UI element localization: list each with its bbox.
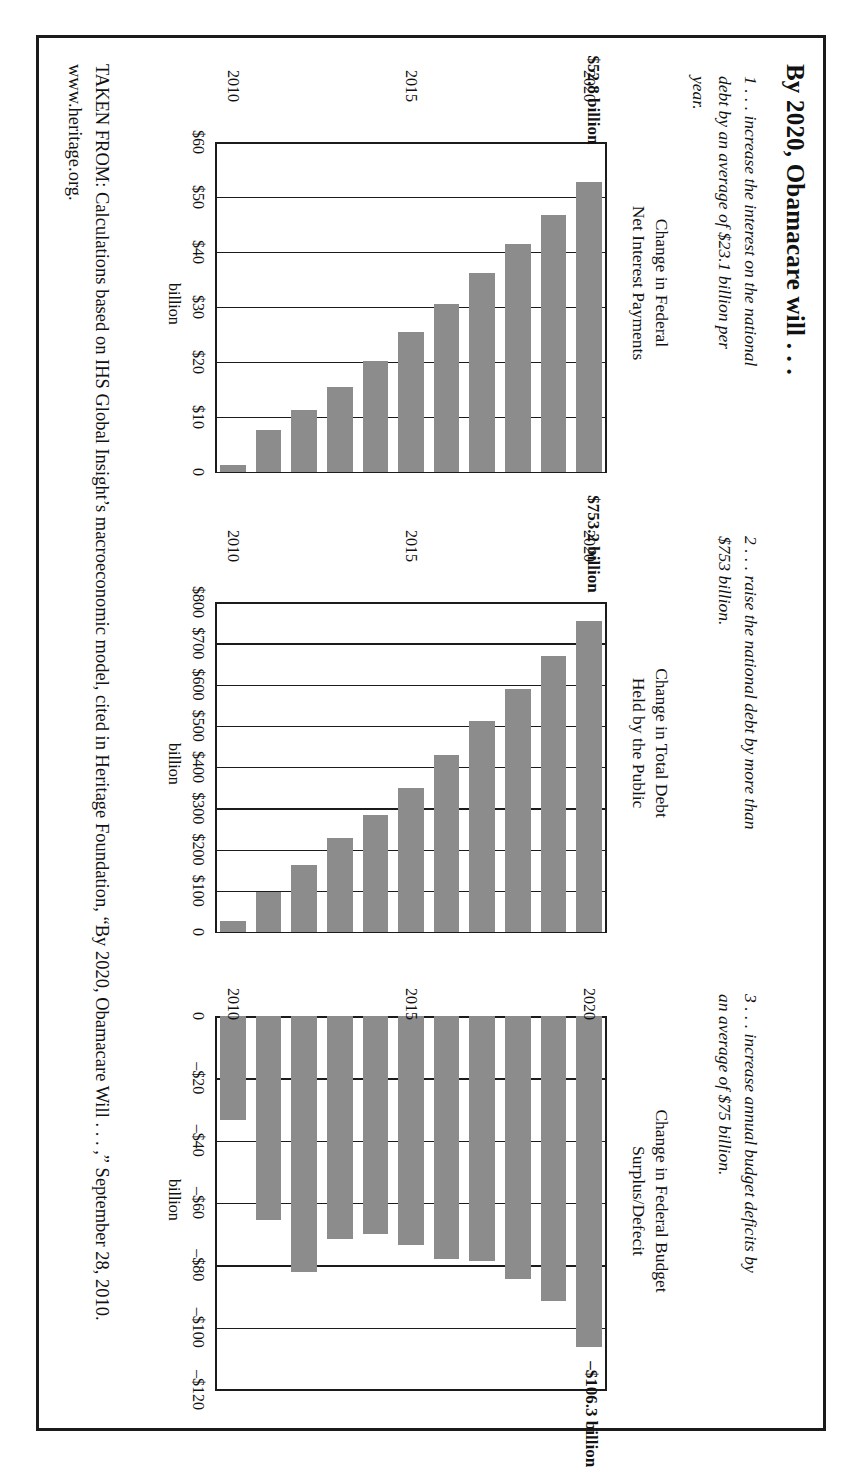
- bar: [398, 788, 424, 932]
- bar: [256, 430, 282, 472]
- value-axis-tick-label: $100: [189, 875, 207, 907]
- bar: [541, 656, 567, 932]
- bar: [434, 304, 460, 472]
- chart-federal-budget-surplus-deficit: Change in Federal BudgetSurplus/Defecit0…: [113, 986, 673, 1416]
- category-axis-tick-label: 2010: [224, 70, 242, 102]
- value-axis-tick-label: $600: [189, 669, 207, 701]
- bar: [363, 815, 389, 932]
- value-axis-tick-label: $700: [189, 627, 207, 659]
- bar: [434, 755, 460, 932]
- chart-title-line-2: Net Interest Payments: [628, 68, 651, 498]
- value-axis-tick-label: $20: [189, 350, 207, 374]
- value-axis-tick-label: $60: [189, 130, 207, 154]
- plot-area: [215, 142, 607, 472]
- bar: [291, 410, 317, 472]
- category-axis-tick-label: 2015: [402, 70, 420, 102]
- claim-item-2: 2 . . . raise the national debt by more …: [711, 536, 763, 836]
- chart-title-line-1: Change in Federal: [650, 68, 673, 498]
- value-axis-unit-label: billion: [165, 283, 183, 325]
- chart-title-line-1: Change in Total Debt: [650, 528, 673, 958]
- chart-total-debt-held-by-public: Change in Total DebtHeld by the Public$8…: [113, 528, 673, 958]
- bar: [469, 273, 495, 472]
- gridline: [215, 602, 607, 603]
- page-title: By 2020, Obamacare will . . .: [781, 64, 809, 375]
- bar: [469, 721, 495, 932]
- gridline: [215, 142, 607, 143]
- value-axis-tick-label: $400: [189, 751, 207, 783]
- gridline: [215, 1390, 607, 1391]
- value-axis-tick-label: –$60: [189, 1187, 207, 1219]
- bar: [505, 689, 531, 932]
- bar: [220, 1016, 246, 1120]
- value-axis-tick-label: $800: [189, 586, 207, 618]
- bar: [363, 361, 389, 472]
- chart-title-line-1: Change in Federal Budget: [650, 986, 673, 1416]
- value-axis-unit-label: billion: [165, 1179, 183, 1221]
- bar: [327, 1016, 353, 1239]
- value-axis-tick-label: –$80: [189, 1249, 207, 1281]
- value-axis-unit-label: billion: [165, 743, 183, 785]
- value-axis-tick-label: $40: [189, 240, 207, 264]
- bar: [541, 215, 567, 472]
- rotated-page-wrapper: By 2020, Obamacare will . . . 1 . . . in…: [0, 0, 868, 1484]
- chart-title-line-2: Surplus/Defecit: [628, 986, 651, 1416]
- bar: [256, 892, 282, 932]
- bar: [327, 387, 353, 472]
- chart-title: Change in FederalNet Interest Payments: [628, 68, 674, 498]
- bar: [363, 1016, 389, 1234]
- plot-area: [215, 1016, 607, 1390]
- value-axis-tick-label: 0: [189, 928, 207, 936]
- gridline: [215, 472, 607, 473]
- bar: [398, 1016, 424, 1245]
- gridline: [215, 643, 607, 644]
- value-axis-tick-label: –$120: [189, 1370, 207, 1410]
- bar: [576, 182, 602, 472]
- content-frame: By 2020, Obamacare will . . . 1 . . . in…: [36, 35, 826, 1431]
- chart-title: Change in Federal BudgetSurplus/Defecit: [628, 986, 674, 1416]
- value-axis-tick-label: –$40: [189, 1125, 207, 1157]
- bar: [220, 465, 246, 472]
- claim-item-3: 3 . . . increase annual budget deficits …: [711, 994, 763, 1294]
- chart-value-callout: –$106.3 billion: [581, 1361, 601, 1467]
- source-note: TAKEN FROM: Calculations based on IHS Gl…: [61, 64, 115, 1404]
- value-axis-tick-label: $500: [189, 710, 207, 742]
- bar: [291, 1016, 317, 1272]
- category-axis-tick-label: 2010: [224, 988, 242, 1020]
- bar: [576, 621, 602, 932]
- claim-item-1: 1 . . . increase the interest on the nat…: [685, 76, 763, 386]
- bar: [434, 1016, 460, 1259]
- value-axis-tick-label: 0: [189, 1012, 207, 1020]
- plot-area: [215, 602, 607, 932]
- bar: [541, 1016, 567, 1301]
- value-axis-tick-label: $200: [189, 834, 207, 866]
- category-axis-tick-label: 2020: [580, 988, 598, 1020]
- bar: [398, 332, 424, 472]
- value-axis-tick-label: $300: [189, 792, 207, 824]
- value-axis-tick-label: $50: [189, 185, 207, 209]
- value-axis-tick-label: –$100: [189, 1308, 207, 1348]
- chart-net-interest-payments: Change in FederalNet Interest Payments$6…: [113, 68, 673, 498]
- value-axis-tick-label: –$20: [189, 1062, 207, 1094]
- gridline: [215, 1328, 607, 1329]
- bar: [469, 1016, 495, 1261]
- category-axis-tick-label: 2015: [402, 988, 420, 1020]
- gridline: [215, 932, 607, 933]
- chart-value-callout: $753.2 billion: [583, 495, 603, 592]
- value-axis-tick-label: 0: [189, 468, 207, 476]
- bar: [256, 1016, 282, 1220]
- bar: [576, 1016, 602, 1347]
- chart-value-callout: $52.8 billion: [583, 56, 603, 145]
- category-axis-tick-label: 2015: [402, 530, 420, 562]
- bar: [327, 838, 353, 932]
- value-axis-tick-label: $10: [189, 405, 207, 429]
- claims-list: 1 . . . increase the interest on the nat…: [683, 64, 763, 1404]
- chart-title-line-2: Held by the Public: [628, 528, 651, 958]
- bar: [291, 865, 317, 932]
- document-page: By 2020, Obamacare will . . . 1 . . . in…: [0, 0, 868, 1484]
- category-axis-tick-label: 2010: [224, 530, 242, 562]
- bar: [220, 921, 246, 932]
- value-axis-tick-label: $30: [189, 295, 207, 319]
- bar: [505, 1016, 531, 1279]
- gridline: [215, 197, 607, 198]
- bar: [505, 244, 531, 472]
